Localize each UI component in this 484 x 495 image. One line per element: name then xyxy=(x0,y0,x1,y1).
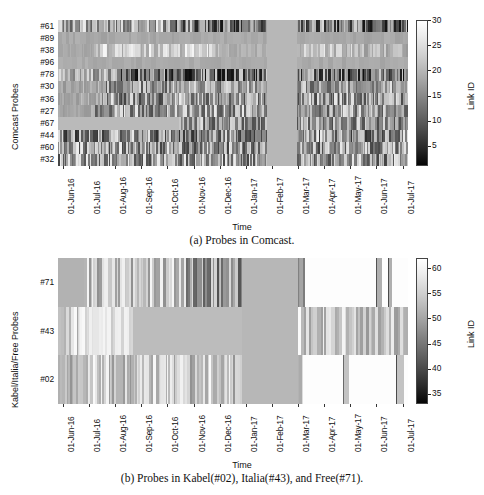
heatmap-cell xyxy=(407,81,408,94)
heatmap-row xyxy=(58,105,408,118)
y-tick-label: #02 xyxy=(28,374,54,384)
x-tick-label: 01-Jul-16 xyxy=(93,419,102,452)
heatmap-cell xyxy=(406,307,408,356)
x-tick-mark xyxy=(272,404,273,407)
colorbar-tick-label: 30 xyxy=(432,15,441,25)
colorbar-tick-mark xyxy=(428,268,431,269)
x-tick-label: 01-Nov-16 xyxy=(198,177,207,214)
heatmap-row xyxy=(58,69,408,82)
y-tick-label: #27 xyxy=(28,106,54,116)
figure-root: Comcast Probes #61#89#38#96#78#30#36#27#… xyxy=(0,0,484,495)
panel-a-caption: (a) Probes in Comcast. xyxy=(0,234,484,246)
x-tick-label: 01-Jul-17 xyxy=(407,181,416,214)
x-tick-label: 01-Sep-16 xyxy=(145,415,154,452)
x-tick-label: 01-Jan-17 xyxy=(250,178,259,214)
heatmap-cell xyxy=(303,355,310,404)
heatmap-row xyxy=(58,117,408,130)
heatmap-cell xyxy=(406,69,408,82)
colorbar-tick-label: 50 xyxy=(432,313,441,323)
colorbar-tick-label: 5 xyxy=(432,140,437,150)
x-tick-label: 01-Feb-17 xyxy=(276,178,285,214)
y-tick-label: #60 xyxy=(28,142,54,152)
x-tick-mark xyxy=(324,166,325,169)
heatmap-cell xyxy=(407,20,408,33)
heatmap-cell xyxy=(376,258,377,307)
heatmap-row xyxy=(58,258,408,307)
heatmap-cell xyxy=(353,258,362,307)
x-tick-mark xyxy=(403,404,404,407)
x-tick-mark xyxy=(141,166,142,169)
y-tick-label: #44 xyxy=(28,130,54,140)
x-tick-mark xyxy=(89,404,90,407)
x-tick-mark xyxy=(220,404,221,407)
colorbar-tick-mark xyxy=(428,344,431,345)
panel-a-colorbar-title: Link ID xyxy=(466,82,476,110)
colorbar-tick-mark xyxy=(428,293,431,294)
heatmap-row xyxy=(58,142,408,155)
colorbar-tick-mark xyxy=(428,146,431,147)
x-tick-mark xyxy=(115,404,116,407)
heatmap-cell xyxy=(407,32,408,45)
heatmap-cell xyxy=(388,355,397,404)
y-tick-label: #67 xyxy=(28,118,54,128)
x-tick-mark xyxy=(272,166,273,169)
x-tick-label: 01-Apr-17 xyxy=(328,417,337,452)
colorbar-tick-label: 25 xyxy=(432,40,441,50)
x-tick-mark xyxy=(246,404,247,407)
x-tick-mark xyxy=(403,166,404,169)
x-tick-mark xyxy=(298,166,299,169)
heatmap-cell xyxy=(382,258,389,307)
x-tick-mark xyxy=(194,166,195,169)
y-tick-label: #78 xyxy=(28,69,54,79)
x-tick-mark xyxy=(298,404,299,407)
heatmap-cell xyxy=(396,355,397,404)
x-tick-mark xyxy=(167,404,168,407)
x-tick-label: 01-Mar-17 xyxy=(302,178,311,214)
x-tick-label: 01-Jun-16 xyxy=(67,178,76,214)
panel-a-y-axis-title: Comcast Probes xyxy=(10,83,20,150)
x-tick-mark xyxy=(246,166,247,169)
x-tick-label: 01-Oct-16 xyxy=(171,417,180,452)
heatmap-cell xyxy=(404,57,408,70)
heatmap-cell xyxy=(407,130,408,143)
x-tick-label: 01-Jul-17 xyxy=(407,419,416,452)
x-tick-mark xyxy=(376,404,377,407)
x-tick-mark xyxy=(89,166,90,169)
heatmap-cell xyxy=(58,258,84,307)
colorbar-tick-label: 40 xyxy=(432,363,441,373)
x-tick-mark xyxy=(167,166,168,169)
colorbar-tick-label: 45 xyxy=(432,338,441,348)
x-tick-label: 01-Jun-17 xyxy=(380,178,389,214)
heatmap-cell xyxy=(343,355,344,404)
heatmap-cell xyxy=(58,117,179,130)
colorbar-tick-mark xyxy=(428,20,431,21)
panel-b-heatmap xyxy=(58,258,408,404)
panel-b-y-axis-title: Kabel/Italia/Free Probes xyxy=(10,311,20,408)
colorbar-tick-label: 55 xyxy=(432,288,441,298)
x-tick-label: 01-Mar-17 xyxy=(302,416,311,452)
x-tick-label: 01-Jan-17 xyxy=(250,416,259,452)
panel-a-heatmap xyxy=(58,20,408,166)
x-tick-label: 01-Oct-16 xyxy=(171,179,180,214)
heatmap-row xyxy=(58,44,408,57)
y-tick-label: #43 xyxy=(28,326,54,336)
x-tick-label: 01-May-17 xyxy=(354,176,363,214)
colorbar-tick-mark xyxy=(428,96,431,97)
heatmap-cell xyxy=(407,154,408,166)
heatmap-row xyxy=(58,57,408,70)
x-tick-mark xyxy=(376,166,377,169)
heatmap-cell xyxy=(379,355,386,404)
x-tick-label: 01-Sep-16 xyxy=(145,177,154,214)
colorbar-tick-mark xyxy=(428,318,431,319)
x-tick-mark xyxy=(324,404,325,407)
colorbar-tick-mark xyxy=(428,121,431,122)
panel-b-colorbar-gradient xyxy=(416,258,428,404)
x-tick-label: 01-Nov-16 xyxy=(198,415,207,452)
x-tick-mark xyxy=(350,404,351,407)
colorbar-tick-mark xyxy=(428,369,431,370)
panel-b-colorbar xyxy=(416,258,428,404)
heatmap-row xyxy=(58,130,408,143)
missing-data-gap xyxy=(242,258,298,404)
panel-a-x-axis-title: Time xyxy=(0,222,484,232)
panel-comcast: Comcast Probes #61#89#38#96#78#30#36#27#… xyxy=(0,0,484,248)
